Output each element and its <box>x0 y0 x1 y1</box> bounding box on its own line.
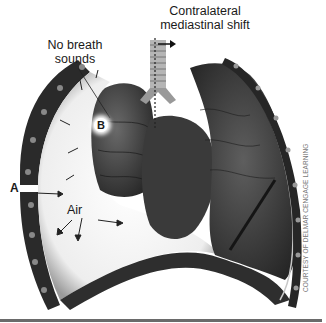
title-line-1: Contralateral <box>130 4 280 18</box>
bottom-divider <box>0 319 322 322</box>
no-breath-sounds-label: No breath sounds <box>40 38 110 67</box>
marker-b: B <box>94 118 108 132</box>
pneumothorax-diagram: Contralateral mediastinal shift No breat… <box>0 0 326 323</box>
marker-a: A <box>10 182 19 196</box>
air-label: Air <box>67 203 82 217</box>
image-credit: COURTESY OF DELMAR CENGAGE LEARNING <box>302 144 309 292</box>
no-breath-line-1: No breath <box>40 38 110 52</box>
heart <box>142 116 215 239</box>
no-breath-line-2: sounds <box>40 52 110 66</box>
title-line-2: mediastinal shift <box>130 18 280 32</box>
title-label: Contralateral mediastinal shift <box>130 4 280 33</box>
